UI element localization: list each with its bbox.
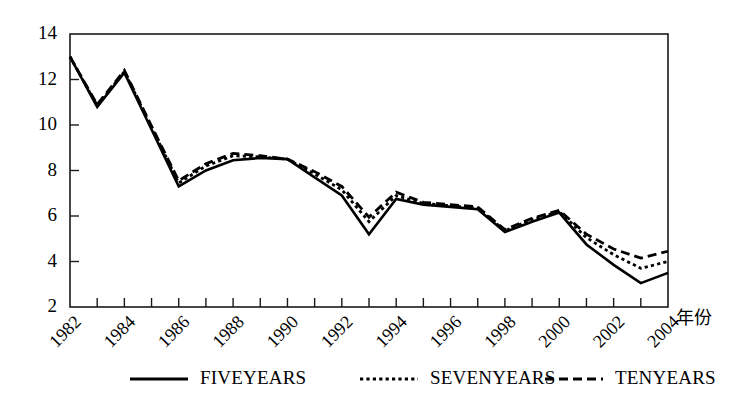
y-axis-ticks — [70, 80, 79, 262]
plot-frame — [70, 34, 668, 307]
x-axis-tick-label: 1986 — [154, 312, 194, 352]
x-axis-title: 年份 — [676, 308, 712, 328]
x-axis-tick-label: 1996 — [426, 312, 466, 352]
x-axis-tick-label: 1994 — [371, 312, 411, 352]
x-axis-labels: 1982198419861988199019921994199619982000… — [45, 312, 683, 352]
y-axis-tick-label: 14 — [38, 22, 58, 43]
x-axis-tick-label: 1984 — [100, 312, 140, 352]
x-axis-tick-label: 1998 — [480, 312, 520, 352]
line-chart: 2468101214 19821984198619881990199219941… — [0, 0, 755, 416]
x-axis-tick-label: 2002 — [589, 312, 629, 352]
y-axis-tick-label: 6 — [48, 204, 58, 225]
y-axis-tick-label: 12 — [38, 68, 57, 89]
y-axis-tick-label: 8 — [48, 159, 58, 180]
series-line-fiveyears — [70, 57, 668, 283]
x-axis-tick-label: 1982 — [45, 312, 85, 352]
x-axis-tick-label: 1990 — [263, 312, 303, 352]
chart-legend: FIVEYEARSSEVENYEARSTENYEARS — [130, 367, 716, 388]
y-axis-labels: 2468101214 — [38, 22, 58, 316]
series-line-tenyears — [70, 57, 668, 258]
x-axis-tick-label: 2000 — [535, 312, 575, 352]
y-axis-tick-label: 10 — [38, 113, 57, 134]
chart-canvas: 2468101214 19821984198619881990199219941… — [0, 0, 755, 416]
legend-label-tenyears: TENYEARS — [615, 367, 716, 388]
x-axis-ticks — [97, 298, 641, 307]
x-axis-tick-label: 1988 — [208, 312, 248, 352]
data-series-group — [70, 57, 668, 283]
y-axis-tick-label: 4 — [48, 250, 58, 271]
legend-label-sevenyears: SEVENYEARS — [430, 367, 556, 388]
legend-label-fiveyears: FIVEYEARS — [200, 367, 306, 388]
y-axis-tick-label: 2 — [48, 295, 58, 316]
x-axis-tick-label: 1992 — [317, 312, 357, 352]
